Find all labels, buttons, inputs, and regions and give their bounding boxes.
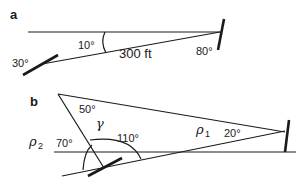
apex-angle-label: 50° — [79, 103, 96, 115]
panel-b-label: b — [30, 94, 38, 109]
station-marker — [88, 158, 122, 176]
distance-label: 300 ft — [119, 46, 152, 61]
angle-arc-70 — [83, 145, 92, 170]
rho1-symbol: ρ 1 — [195, 122, 210, 139]
right-marker — [285, 120, 289, 152]
right-marker — [218, 19, 224, 50]
gamma-symbol: γ — [96, 116, 104, 131]
right-angle-label: 110° — [117, 132, 139, 144]
svg-text:2: 2 — [38, 141, 43, 151]
right-marker-angle-label: 80° — [196, 45, 213, 57]
left-marker-angle-label: 30° — [12, 57, 29, 69]
rho2-symbol: ρ 2 — [28, 134, 43, 151]
vertex-angle-arc — [103, 32, 106, 53]
svg-text:ρ: ρ — [28, 134, 37, 149]
svg-text:ρ: ρ — [195, 122, 204, 137]
panel-a: a 10° 300 ft 30° 80° — [10, 7, 224, 75]
panel-a-label: a — [10, 7, 18, 22]
vertex-angle-label: 10° — [78, 39, 95, 51]
left-angle-label: 70° — [56, 137, 73, 149]
geometry-diagram: a 10° 300 ft 30° 80° b 50° γ 70° 110° 20… — [0, 0, 304, 189]
far-right-angle-label: 20° — [224, 127, 241, 139]
svg-text:1: 1 — [205, 129, 210, 139]
panel-b: b 50° γ 70° 110° 20° ρ 2 ρ 1 — [28, 94, 296, 176]
